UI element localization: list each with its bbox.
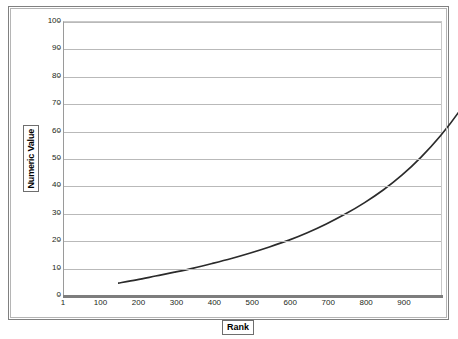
y-axis-tick-mark	[57, 158, 61, 159]
y-axis-tick-mark	[57, 213, 61, 214]
gridline	[64, 132, 441, 133]
y-axis-tick-label: 90	[19, 44, 61, 52]
y-axis-tick-label: 10	[19, 264, 61, 272]
y-axis-tick-mark	[57, 76, 61, 77]
gridline	[64, 159, 441, 160]
plot-area	[63, 21, 442, 297]
y-axis-title-text: Numeric Value	[26, 129, 36, 188]
y-axis-tick-mark	[57, 268, 61, 269]
x-axis-tick-label: 800	[359, 298, 372, 307]
x-axis-tick-label: 500	[246, 298, 259, 307]
gridline	[64, 241, 441, 242]
y-axis-tick-label: 100	[19, 17, 61, 25]
y-axis-tick-mark	[57, 48, 61, 49]
y-axis-title: Numeric Value	[23, 125, 39, 192]
x-axis-tick-label: 600	[284, 298, 297, 307]
gridline	[64, 214, 441, 215]
gridline	[64, 77, 441, 78]
gridline	[64, 49, 441, 50]
gridline	[64, 104, 441, 105]
y-axis-tick-mark	[57, 295, 61, 296]
y-axis-tick-mark	[57, 131, 61, 132]
x-axis-tick-label: 100	[94, 298, 107, 307]
y-axis-tick-mark	[57, 103, 61, 104]
gridline	[64, 186, 441, 187]
x-axis-tick-label: 700	[321, 298, 334, 307]
x-axis-tick-label: 300	[170, 298, 183, 307]
x-axis-tick-label: 400	[208, 298, 221, 307]
chart-frame: 1009080706050403020100 11002003004005006…	[8, 6, 449, 320]
y-axis-tick-mark	[57, 21, 61, 22]
x-axis-tick-label: 1	[61, 298, 65, 307]
x-axis-tick-label: 900	[397, 298, 410, 307]
x-axis-tick-label: 200	[132, 298, 145, 307]
gridline	[64, 22, 441, 23]
y-axis-tick-mark	[57, 240, 61, 241]
x-axis-title: Rank	[222, 320, 254, 335]
gridline	[64, 269, 441, 270]
y-axis-tick-label: 30	[19, 209, 61, 217]
y-axis-tick-label: 70	[19, 99, 61, 107]
x-axis-tick-labels: 1100200300400500600700800900	[9, 298, 458, 312]
y-axis-tick-label: 20	[19, 236, 61, 244]
y-axis-tick-label: 80	[19, 72, 61, 80]
y-axis-tick-mark	[57, 185, 61, 186]
